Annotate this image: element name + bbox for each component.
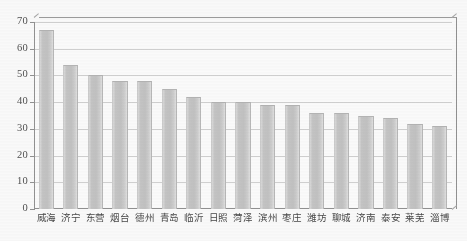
bar-slot [88,22,103,209]
bar-slot [309,22,324,209]
bar-泰安 [383,118,398,209]
bar-日照 [211,102,226,209]
bar-slot [63,22,78,209]
bar-series [34,22,452,209]
y-tick-label-20: 20 [2,149,28,160]
bar-临沂 [186,97,201,209]
bar-东营 [88,75,103,209]
bar-slot [285,22,300,209]
bar-聊城 [334,113,349,209]
y-tick-label-50: 50 [2,68,28,79]
bar-滨州 [260,105,275,209]
bar-济南 [358,116,373,210]
bar-青岛 [162,89,177,209]
bar-slot [211,22,226,209]
bar-枣庄 [285,105,300,209]
bar-slot [137,22,152,209]
bar-slot [407,22,422,209]
y-tick-label-30: 30 [2,122,28,133]
bar-slot [383,22,398,209]
y-tick-label-70: 70 [2,15,28,26]
bar-slot [39,22,54,209]
bar-slot [186,22,201,209]
bar-slot [432,22,447,209]
y-tick-label-10: 10 [2,175,28,186]
bar-淄博 [432,126,447,209]
x-tick-label-淄博: 淄博 [425,212,454,223]
bar-slot [112,22,127,209]
bar-威海 [39,30,54,209]
y-tick-label-40: 40 [2,95,28,106]
bar-德州 [137,81,152,209]
y-tick-label-0: 0 [2,202,28,213]
bar-slot [260,22,275,209]
bar-菏泽 [235,102,250,209]
bar-莱芜 [407,124,422,209]
bar-潍坊 [309,113,324,209]
bar-slot [162,22,177,209]
bar-济宁 [63,65,78,209]
bar-烟台 [112,81,127,209]
bar-slot [235,22,250,209]
y-tick-label-60: 60 [2,42,28,53]
bar-chart-figure: 010203040506070 威海济宁东营烟台德州青岛临沂日照菏泽滨州枣庄潍坊… [0,0,467,241]
bar-slot [334,22,349,209]
y-tick-mark-0 [30,209,35,210]
bar-slot [358,22,373,209]
